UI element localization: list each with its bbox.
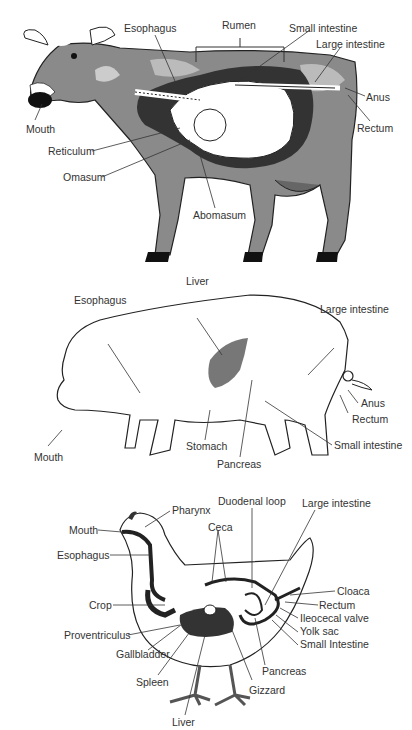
cow-label-mouth: Mouth xyxy=(26,124,55,135)
chicken-label-large-intestine: Large intestine xyxy=(302,498,371,509)
chicken-label-mouth: Mouth xyxy=(69,525,98,536)
cow-label-large-intestine: Large intestine xyxy=(316,39,385,50)
chicken-label-gallbladder: Gallbladder xyxy=(116,649,170,660)
pig-label-rectum: Rectum xyxy=(352,414,388,425)
chicken-label-gizzard: Gizzard xyxy=(249,685,285,696)
pig-label-stomach: Stomach xyxy=(186,441,227,452)
chicken-label-crop: Crop xyxy=(89,600,112,611)
chicken-diagram: Pharynx Duodenal loop Large intestine Mo… xyxy=(0,470,412,730)
chicken-label-cloaca: Cloaca xyxy=(337,586,370,597)
chicken-label-ileocecal-valve: Ileocecal valve xyxy=(300,613,369,624)
cow-label-rumen: Rumen xyxy=(222,20,256,31)
pig-label-anus: Anus xyxy=(361,398,385,409)
pig-label-small-intestine: Small intestine xyxy=(334,440,402,451)
chicken-label-pharynx: Pharynx xyxy=(172,505,211,516)
chicken-label-liver: Liver xyxy=(172,717,195,728)
cow-label-omasum: Omasum xyxy=(63,172,106,183)
chicken-label-rectum: Rectum xyxy=(319,600,355,611)
chicken-label-small-intestine: Small Intestine xyxy=(300,639,369,650)
chicken-label-pancreas: Pancreas xyxy=(262,666,306,677)
pig-label-large-intestine: Large intestine xyxy=(320,304,389,315)
cow-label-anus: Anus xyxy=(366,92,390,103)
pig-label-esophagus: Esophagus xyxy=(74,295,127,306)
chicken-label-proventriculus: Proventriculus xyxy=(64,630,131,641)
cow-label-small-intestine: Small intestine xyxy=(289,23,357,34)
pig-diagram: Liver Esophagus Large intestine Anus Rec… xyxy=(0,270,412,470)
cow-label-esophagus: Esophagus xyxy=(124,23,177,34)
cow-label-rectum: Rectum xyxy=(357,123,393,134)
chicken-label-yolk-sac: Yolk sac xyxy=(300,626,339,637)
chicken-label-esophagus: Esophagus xyxy=(57,550,110,561)
chicken-label-duodenal-loop: Duodenal loop xyxy=(218,496,286,507)
cow-diagram: Esophagus Rumen Small intestine Large in… xyxy=(0,0,412,265)
pig-label-liver: Liver xyxy=(186,276,209,287)
chicken-label-spleen: Spleen xyxy=(136,677,169,688)
pig-label-mouth: Mouth xyxy=(34,452,63,463)
cow-label-abomasum: Abomasum xyxy=(193,210,246,221)
cow-label-reticulum: Reticulum xyxy=(48,146,95,157)
pig-label-pancreas: Pancreas xyxy=(217,459,261,470)
chicken-label-ceca: Ceca xyxy=(208,522,233,533)
